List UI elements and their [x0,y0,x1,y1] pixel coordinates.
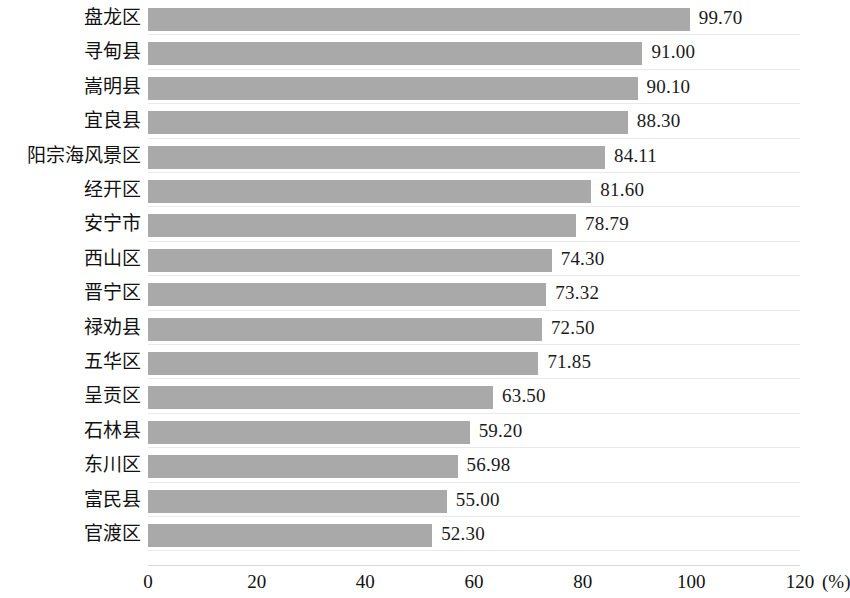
category-label: 晋宁区 [1,281,141,305]
bar[interactable] [148,283,546,306]
x-axis: (%) 020406080100120 [0,566,850,598]
bar-row[interactable]: 71.85 [148,347,850,381]
bar[interactable] [148,352,538,375]
bar-value-label: 78.79 [585,212,629,236]
bar-row[interactable]: 52.30 [148,519,850,553]
bar-row[interactable]: 59.20 [148,416,850,450]
bar[interactable] [148,42,642,65]
bar[interactable] [148,386,493,409]
bar-value-label: 81.60 [600,178,644,202]
bar-value-label: 74.30 [561,247,605,271]
x-tick-label: 0 [143,570,153,594]
x-tick-label: 40 [356,570,375,594]
bar[interactable] [148,146,605,169]
bar-row[interactable]: 72.50 [148,313,850,347]
bar-value-label: 84.11 [614,144,657,168]
bar-chart: 盘龙区寻甸县嵩明县宜良县阳宗海风景区经开区安宁市西山区晋宁区禄劝县五华区呈贡区石… [0,0,850,598]
x-axis-unit-label: (%) [822,570,850,594]
bar[interactable] [148,180,591,203]
category-label: 寻甸县 [1,40,141,64]
x-tick-label: 80 [573,570,592,594]
bar[interactable] [148,77,638,100]
bar[interactable] [148,490,447,513]
category-label: 富民县 [1,488,141,512]
bar[interactable] [148,421,470,444]
bar-value-label: 71.85 [547,350,591,374]
category-label: 嵩明县 [1,75,141,99]
x-tick-label: 60 [465,570,484,594]
bar[interactable] [148,455,458,478]
plot-area: 99.7091.0090.1088.3084.1181.6078.7974.30… [148,0,800,566]
bar-value-label: 88.30 [637,109,681,133]
category-label: 经开区 [1,178,141,202]
bar-row[interactable]: 74.30 [148,244,850,278]
bar-row[interactable]: 88.30 [148,106,850,140]
bar[interactable] [148,214,576,237]
category-label: 盘龙区 [1,6,141,30]
category-label: 宜良县 [1,109,141,133]
bar-row[interactable]: 81.60 [148,175,850,209]
bar-row[interactable]: 91.00 [148,37,850,71]
category-label: 呈贡区 [1,384,141,408]
bar-row[interactable]: 99.70 [148,3,850,37]
x-tick-label: 20 [247,570,266,594]
category-label: 石林县 [1,419,141,443]
bar-value-label: 52.30 [441,522,485,546]
bar-row[interactable]: 73.32 [148,278,850,312]
bar-value-label: 99.70 [699,6,743,30]
bar-value-label: 55.00 [456,488,500,512]
bar-value-label: 90.10 [647,75,691,99]
bar[interactable] [148,524,432,547]
category-label: 禄劝县 [1,316,141,340]
bar-value-label: 56.98 [467,453,511,477]
bar-value-label: 72.50 [551,316,595,340]
category-label: 官渡区 [1,522,141,546]
bar-value-label: 63.50 [502,384,546,408]
category-label: 西山区 [1,247,141,271]
bar-row[interactable]: 55.00 [148,485,850,519]
x-tick-label: 120 [786,570,815,594]
bar[interactable] [148,8,690,31]
bar-value-label: 91.00 [651,40,695,64]
bar-row[interactable]: 84.11 [148,141,850,175]
bar[interactable] [148,318,542,341]
category-label: 安宁市 [1,212,141,236]
bar-row[interactable]: 90.10 [148,72,850,106]
bar[interactable] [148,111,628,134]
category-label: 五华区 [1,350,141,374]
x-tick-label: 100 [677,570,706,594]
bar-row[interactable]: 63.50 [148,381,850,415]
bar[interactable] [148,249,552,272]
category-label: 东川区 [1,453,141,477]
bar-value-label: 59.20 [479,419,523,443]
bar-row[interactable]: 56.98 [148,450,850,484]
category-label: 阳宗海风景区 [1,144,141,168]
category-axis: 盘龙区寻甸县嵩明县宜良县阳宗海风景区经开区安宁市西山区晋宁区禄劝县五华区呈贡区石… [0,0,141,566]
bar-value-label: 73.32 [555,281,599,305]
bar-row[interactable]: 78.79 [148,209,850,243]
